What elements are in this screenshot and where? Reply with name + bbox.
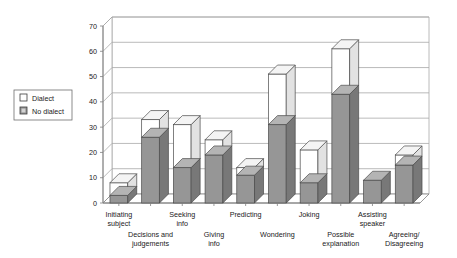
category-label-line: Seeking [169, 210, 195, 219]
category-label-line: Initiating [105, 210, 132, 219]
legend-item: No dialect [20, 107, 64, 116]
y-axis-ticks: 010203040506070 [89, 22, 103, 208]
x-axis-category-label: Assistingspeaker [358, 210, 387, 228]
category-label-line: info [208, 239, 220, 248]
x-axis-category-label: Initiatingsubject [105, 210, 132, 228]
bar-group [364, 171, 391, 203]
bar-group [205, 131, 232, 203]
y-axis-tick-label: 70 [89, 22, 97, 31]
category-label-line: Giving [204, 230, 224, 239]
legend-label: No dialect [32, 107, 64, 116]
y-axis-tick-label: 30 [89, 123, 97, 132]
x-axis-category-labels: InitiatingsubjectDecisions andjudgements… [105, 210, 423, 248]
category-label-line: judgements [131, 239, 170, 248]
bar-group [237, 159, 264, 203]
y-axis-tick-label: 60 [89, 47, 97, 56]
category-label-line: speaker [360, 219, 386, 228]
bar-segment-gray [364, 171, 391, 203]
bar-group [268, 65, 295, 203]
x-axis-category-label: Joking [299, 210, 320, 219]
y-axis-tick-label: 40 [89, 97, 97, 106]
category-label-line: Wondering [260, 230, 295, 239]
legend-label: Dialect [32, 94, 54, 103]
x-axis-category-label: Decisions andjudgements [128, 230, 173, 248]
stacked-bar-chart: 010203040506070InitiatingsubjectDecision… [0, 0, 457, 258]
bar-segment-gray [395, 156, 422, 203]
x-axis-category-label: Givinginfo [204, 230, 224, 248]
y-axis-tick-label: 10 [89, 173, 97, 182]
chart-legend: DialectNo dialect [14, 90, 72, 120]
y-axis-tick-label: 20 [89, 148, 97, 157]
category-label-line: Disagreeing [385, 239, 423, 248]
category-label-line: Predicting [230, 210, 262, 219]
x-axis-category-label: Possibleexplanation [322, 230, 359, 248]
y-axis-tick-label: 50 [89, 72, 97, 81]
bar-segment-gray [332, 85, 359, 203]
chart-container: 010203040506070InitiatingsubjectDecision… [0, 0, 457, 258]
category-label-line: subject [107, 219, 130, 228]
bar-group [300, 141, 327, 203]
legend-item: Dialect [20, 94, 54, 103]
category-label-line: Agreeing/ [389, 230, 420, 239]
bar-segment-gray [173, 159, 200, 203]
bar-segment-gray [268, 116, 295, 203]
category-label-line: explanation [322, 239, 359, 248]
category-label-line: Assisting [358, 210, 387, 219]
category-label-line: Decisions and [128, 230, 173, 239]
bar-group [395, 146, 422, 203]
category-label-line: Joking [299, 210, 320, 219]
bar-group [142, 111, 169, 203]
y-axis-tick-label: 0 [93, 199, 97, 208]
category-label-line: info [176, 219, 188, 228]
bar-segment-gray [237, 166, 264, 203]
category-label-line: Possible [327, 230, 354, 239]
x-axis-category-label: Agreeing/Disagreeing [385, 230, 423, 248]
bar-segment-gray [205, 146, 232, 203]
x-axis-category-label: Seekinginfo [169, 210, 195, 228]
bar-group [173, 116, 200, 203]
bar-segment-gray [142, 128, 169, 203]
x-axis-category-label: Predicting [230, 210, 262, 219]
x-axis-category-label: Wondering [260, 230, 295, 239]
bar-group [332, 40, 359, 203]
